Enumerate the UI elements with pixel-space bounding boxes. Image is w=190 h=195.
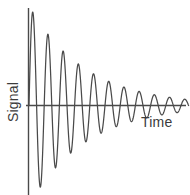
signal-curve [29,12,189,187]
damped-oscillation-figure: Signal Time [0,0,190,195]
x-axis-label: Time [141,115,172,129]
plot-area [0,0,190,195]
y-axis-label: Signal [6,108,66,122]
